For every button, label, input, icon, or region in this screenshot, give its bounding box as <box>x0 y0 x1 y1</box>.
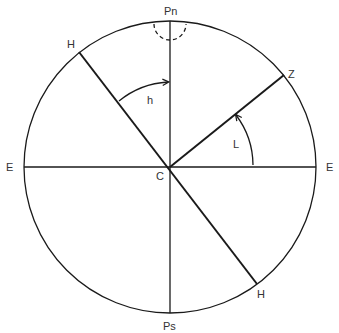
label-east-right: E <box>326 161 333 173</box>
hour-angle-arc <box>119 82 168 101</box>
zenith-line <box>170 75 284 167</box>
label-latitude: L <box>233 138 239 150</box>
label-hour-angle: h <box>147 94 153 106</box>
label-north-pole: Pn <box>164 5 177 17</box>
label-south-pole: Ps <box>163 320 176 332</box>
label-east-left: E <box>6 161 13 173</box>
label-center: C <box>156 170 164 182</box>
label-horizon-lower: H <box>257 288 265 300</box>
diagram-canvas: Pn Ps E E C H H Z h L <box>0 0 339 333</box>
label-zenith: Z <box>288 68 295 80</box>
label-horizon-upper: H <box>67 38 75 50</box>
horizon-line <box>79 52 257 284</box>
